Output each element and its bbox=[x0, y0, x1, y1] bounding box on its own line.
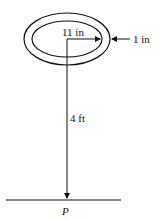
thickness-label: 1 in bbox=[133, 33, 150, 45]
distance-label: 4 ft bbox=[70, 112, 85, 124]
loop-field-diagram: 11 in 1 in 4 ft P bbox=[0, 0, 159, 220]
radius-label: 11 in bbox=[62, 26, 84, 38]
point-label: P bbox=[61, 205, 69, 217]
